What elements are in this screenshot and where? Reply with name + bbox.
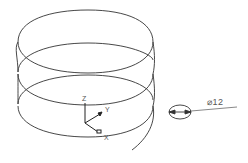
ucs-icon [85,103,102,133]
y-axis-label: Y [105,106,110,113]
leader-line [191,107,237,111]
y-axis [85,114,100,123]
helix-loop-1 [18,10,153,73]
cad-canvas[interactable]: Z Y X ⌀12 [0,0,248,163]
helix-loop-3 [18,74,155,137]
helix-drawing [0,0,248,163]
diameter-symbol [169,105,237,119]
x-axis-box [97,130,101,133]
x-axis-label: X [104,134,109,141]
diameter-dimension-text: ⌀12 [207,98,224,107]
z-axis-label: Z [82,95,86,102]
x-axis [85,123,98,132]
